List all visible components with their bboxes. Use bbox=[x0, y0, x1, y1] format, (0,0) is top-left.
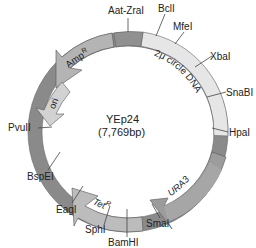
svg-text:HpaI: HpaI bbox=[229, 127, 250, 138]
svg-text:SmaI: SmaI bbox=[146, 218, 169, 229]
restriction-site-pvuii: PvuII bbox=[8, 122, 52, 133]
svg-text:SnaBI: SnaBI bbox=[226, 87, 253, 98]
plasmid-name: YEp24 bbox=[106, 113, 139, 125]
svg-text:XbaI: XbaI bbox=[210, 51, 231, 62]
segment-top-band bbox=[114, 31, 143, 46]
restriction-site-mfei: MfeI bbox=[173, 21, 192, 44]
svg-text:PvuII: PvuII bbox=[8, 122, 31, 133]
plasmid-size: (7,769bp) bbox=[98, 126, 145, 138]
svg-text:Aat-ZraI: Aat-ZraI bbox=[108, 5, 144, 16]
svg-text:EagI: EagI bbox=[56, 204, 77, 215]
svg-text:BspEI: BspEI bbox=[27, 171, 54, 182]
restriction-site-aat-zrai: Aat-ZraI bbox=[108, 5, 144, 32]
svg-text:SphI: SphI bbox=[85, 224, 106, 235]
segment-ampR: AmpR bbox=[56, 33, 114, 88]
plasmid-map: 2μ circle DNA URA3 TetR AmpR ori YEp24 (… bbox=[0, 0, 256, 248]
segment-2mu-circle: 2μ circle DNA bbox=[141, 32, 228, 136]
segment-tetR: TetR bbox=[72, 188, 143, 232]
svg-text:BamHI: BamHI bbox=[108, 237, 139, 248]
svg-text:BclI: BclI bbox=[158, 3, 175, 14]
restriction-site-bcli: BclI bbox=[156, 3, 175, 36]
svg-text:MfeI: MfeI bbox=[173, 21, 192, 32]
